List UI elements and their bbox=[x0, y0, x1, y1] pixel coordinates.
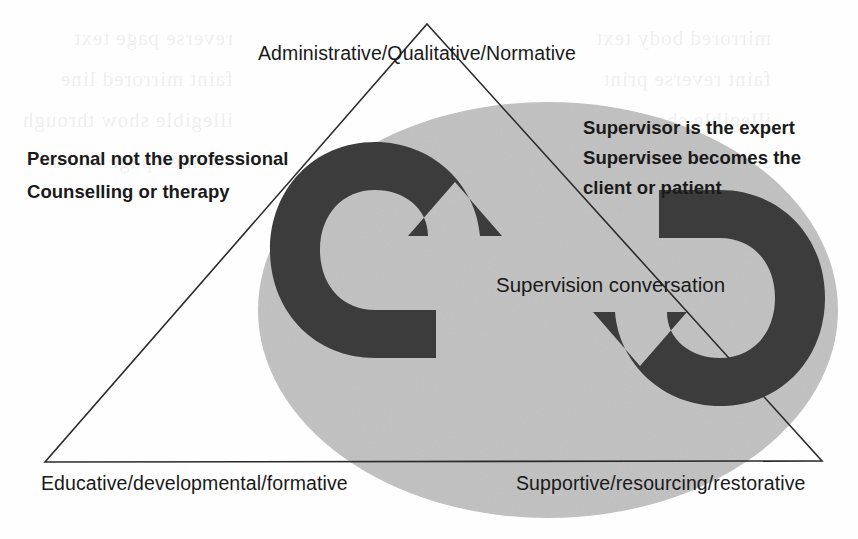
annotation-note-right-line-2: Supervisee becomes the bbox=[583, 143, 801, 173]
annotation-note-left-line-1: Personal not the professional bbox=[27, 143, 289, 176]
vertex-label-administrative: Administrative/Qualitative/Normative bbox=[258, 41, 576, 66]
center-label-supervision-conversation: Supervision conversation bbox=[496, 272, 725, 298]
vertex-label-supportive: Supportive/resourcing/restorative bbox=[516, 471, 805, 496]
annotation-note-right-line-1: Supervisor is the expert bbox=[583, 113, 801, 143]
diagram-graphics bbox=[0, 0, 858, 539]
vertex-label-educative: Educative/developmental/formative bbox=[41, 471, 348, 496]
diagram-canvas: reverse page text faint mirrored line il… bbox=[0, 0, 858, 539]
annotation-note-right-line-3: client or patient bbox=[583, 173, 801, 203]
annotation-note-left-line-2: Counselling or therapy bbox=[27, 176, 289, 209]
annotation-note-left: Personal not the professional Counsellin… bbox=[27, 143, 289, 209]
annotation-note-right: Supervisor is the expert Supervisee beco… bbox=[583, 113, 801, 203]
